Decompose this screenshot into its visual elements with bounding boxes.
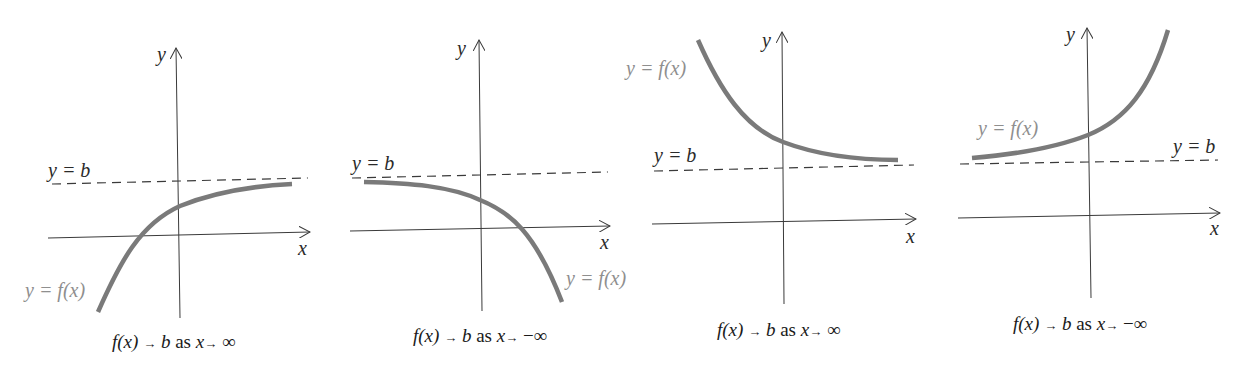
y-axis-label: y	[762, 30, 771, 50]
caption-as: as	[175, 331, 191, 352]
panel-1: y x y = b y = f(x) f(x) → b as x→ ∞	[0, 0, 320, 376]
x-axis	[350, 226, 610, 231]
caption-as: as	[780, 319, 796, 340]
y-axis-label: y	[457, 38, 466, 58]
caption-b: b	[1062, 313, 1072, 334]
asymptote-label: y = b	[654, 145, 696, 165]
y-axis-label: y	[157, 44, 166, 64]
caption-arrow: →	[204, 336, 217, 351]
asymptote-line	[52, 178, 308, 184]
caption: f(x) → b as x→ −∞	[1013, 314, 1147, 333]
caption-x: x	[196, 331, 204, 352]
curve-label: y = f(x)	[626, 58, 686, 78]
caption-arrow: →	[444, 330, 457, 345]
y-axis	[1087, 28, 1091, 298]
caption-x: x	[497, 325, 505, 346]
caption-as: as	[476, 325, 492, 346]
y-axis	[176, 48, 180, 318]
caption-b: b	[462, 325, 472, 346]
curve-label: y = f(x)	[566, 268, 626, 288]
caption-arrow: →	[1044, 318, 1057, 333]
caption-x: x	[801, 319, 809, 340]
x-axis-label: x	[906, 226, 915, 246]
caption-limit: ∞	[827, 319, 841, 340]
caption-arrow: →	[505, 330, 518, 345]
caption-func: f(x)	[413, 325, 439, 346]
caption-func: f(x)	[112, 331, 138, 352]
panel-2: y x y = b y = f(x) f(x) → b as x→ −∞	[320, 0, 640, 376]
function-curve	[364, 182, 562, 302]
caption-func: f(x)	[1013, 313, 1039, 334]
caption-arrow: →	[748, 324, 761, 339]
x-axis-label: x	[1210, 218, 1219, 238]
caption-x: x	[1097, 313, 1105, 334]
caption-arrow: →	[1105, 318, 1118, 333]
curve-label: y = f(x)	[978, 118, 1038, 138]
asymptote-label: y = b	[48, 160, 90, 180]
x-axis-label: x	[600, 232, 609, 252]
caption: f(x) → b as x→ ∞	[717, 320, 840, 339]
caption-limit: −∞	[1123, 313, 1147, 334]
caption-b: b	[161, 331, 171, 352]
x-axis	[958, 213, 1220, 218]
caption: f(x) → b as x→ −∞	[413, 326, 547, 345]
caption-b: b	[766, 319, 776, 340]
x-axis-label: x	[298, 238, 307, 258]
caption-func: f(x)	[717, 319, 743, 340]
caption-as: as	[1076, 313, 1092, 334]
caption-arrow: →	[143, 336, 156, 351]
asymptote-label: y = b	[352, 153, 394, 173]
caption-limit: ∞	[222, 331, 236, 352]
caption-arrow: →	[809, 324, 822, 339]
caption: f(x) → b as x→ ∞	[112, 332, 235, 351]
asymptote-label: y = b	[1173, 136, 1215, 156]
function-curve	[98, 184, 292, 312]
caption-limit: −∞	[523, 325, 547, 346]
y-axis-label: y	[1066, 24, 1075, 44]
curve-label: y = f(x)	[25, 280, 85, 300]
panel-4: y x y = b y = f(x) f(x) → b as x→ −∞	[930, 0, 1244, 376]
panel-3: y x y = b y = f(x) f(x) → b as x→ ∞	[620, 0, 940, 376]
function-curve	[698, 40, 898, 160]
panel-2-graph	[320, 0, 640, 376]
x-axis	[652, 219, 916, 224]
